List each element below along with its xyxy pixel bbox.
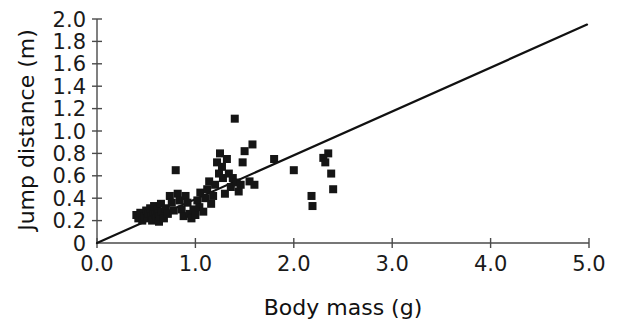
- y-tick-label: 1.2: [53, 97, 86, 121]
- data-point-marker: [216, 149, 224, 157]
- y-tick-label: 1.0: [53, 120, 86, 144]
- data-point-marker: [199, 208, 207, 216]
- tick-labels: 0.01.02.03.04.05.000.20.40.60.81.01.21.4…: [53, 8, 606, 277]
- data-point-marker: [237, 181, 245, 189]
- y-tick-label: 0: [73, 232, 86, 256]
- x-tick-label: 1.0: [179, 252, 212, 276]
- x-axis-title: Body mass (g): [264, 295, 423, 320]
- data-point-marker: [324, 149, 332, 157]
- x-tick-label: 4.0: [474, 252, 507, 276]
- data-point-marker: [231, 115, 239, 123]
- data-point-marker: [239, 158, 247, 166]
- data-point-marker: [223, 155, 231, 163]
- y-tick-label: 0.8: [53, 142, 86, 166]
- data-point-marker: [168, 199, 176, 207]
- data-point-marker: [329, 185, 337, 193]
- data-point-marker: [211, 181, 219, 189]
- y-tick-label: 0.4: [53, 187, 86, 211]
- y-tick-label: 0.6: [53, 164, 86, 188]
- scatter-plot-figure: 0.01.02.03.04.05.000.20.40.60.81.01.21.4…: [0, 0, 631, 327]
- data-point-marker: [207, 200, 215, 208]
- y-tick-label: 0.2: [53, 209, 86, 233]
- data-point-marker: [241, 147, 249, 155]
- plot-canvas: 0.01.02.03.04.05.000.20.40.60.81.01.21.4…: [0, 0, 631, 327]
- data-point-marker: [290, 166, 298, 174]
- data-markers: [132, 115, 337, 226]
- data-point-marker: [209, 192, 217, 200]
- data-point-marker: [321, 158, 329, 166]
- y-tick-label: 2.0: [53, 8, 86, 32]
- x-tick-label: 2.0: [277, 252, 310, 276]
- data-point-marker: [218, 163, 226, 171]
- data-point-marker: [270, 155, 278, 163]
- data-point-marker: [248, 140, 256, 148]
- y-tick-label: 1.8: [53, 30, 86, 54]
- data-point-marker: [327, 170, 335, 178]
- y-tick-label: 1.6: [53, 52, 86, 76]
- data-point-marker: [308, 202, 316, 210]
- data-point-marker: [308, 192, 316, 200]
- data-point-marker: [172, 166, 180, 174]
- x-tick-label: 0.0: [80, 252, 113, 276]
- data-point-marker: [170, 207, 178, 215]
- x-tick-label: 5.0: [572, 252, 605, 276]
- data-point-marker: [250, 181, 258, 189]
- x-tick-label: 3.0: [375, 252, 408, 276]
- y-tick-label: 1.4: [53, 75, 86, 99]
- y-axis-title: Jump distance (m): [14, 29, 39, 233]
- data-point-marker: [191, 211, 199, 219]
